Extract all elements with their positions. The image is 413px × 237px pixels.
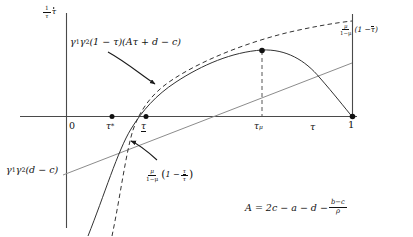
- y-axis-label: 1 τ τ: [42, 4, 56, 19]
- top-right-close: ): [375, 26, 378, 34]
- tau-bar: τ: [371, 26, 375, 34]
- tick-label-tau-star: τ*: [106, 122, 114, 131]
- formula-lhs: A: [245, 203, 252, 213]
- dashed-one-minus: 1 −: [165, 171, 179, 179]
- marker-tau-mu: [259, 48, 265, 54]
- intercept-label: γ1γ2(d − c): [6, 165, 58, 175]
- tick-label-tau-mu: τμ: [254, 122, 263, 131]
- dashed-inner-fraction: τ̲ τ: [181, 168, 188, 182]
- dashed-mu-fraction: μ 1−μ: [144, 168, 160, 182]
- y-axis-fraction: 1 τ: [43, 5, 51, 19]
- formula-rhs: 2c − a − d −: [266, 203, 328, 213]
- tick-label-tau-underline: τ: [141, 122, 146, 131]
- formula-equals: =: [252, 203, 266, 213]
- marker-tau-star: [110, 114, 115, 119]
- intercept-factor: (d − c): [25, 165, 58, 175]
- tick-label-one: 1: [348, 120, 354, 130]
- y-axis-dotted-var: τ: [52, 8, 56, 16]
- top-right-label: μ 1−μ (1 − τ): [337, 22, 378, 36]
- marker-tau-underline: [144, 114, 149, 119]
- factor-one-minus-tau: (1 − τ): [89, 37, 122, 47]
- tick-label-origin: 0: [69, 121, 75, 131]
- figure-container: 1 τ τ γ1γ2(1 − τ)(Aτ + d − c) μ 1−μ (1 −…: [0, 0, 413, 237]
- formula-fraction: b−c ρ: [329, 199, 347, 216]
- mu-fraction: μ 1−μ: [338, 23, 353, 36]
- tick-label-tau-axis: τ: [310, 122, 315, 132]
- curve-main-label: γ1γ2(1 − τ)(Aτ + d − c): [70, 37, 181, 47]
- arrow-to-main-curve: [108, 52, 155, 84]
- dashed-curve-label: μ 1−μ (1 − τ̲ τ ): [143, 167, 193, 182]
- curve-straight-line: [63, 63, 352, 175]
- formula-label: A = 2c − a − d − b−c ρ: [245, 199, 348, 216]
- dashed-close-paren: ): [189, 171, 193, 180]
- factor-a-tau: (Aτ + d − c): [122, 37, 181, 47]
- top-right-open: (1 −: [354, 26, 370, 34]
